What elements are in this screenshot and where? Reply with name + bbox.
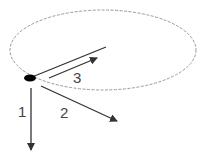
circular-motion-diagram: 3 2 1 [0, 0, 206, 163]
label-3: 3 [73, 69, 81, 86]
diagram-canvas: 3 2 1 [0, 0, 206, 163]
label-1: 1 [18, 103, 26, 120]
label-2: 2 [60, 104, 68, 121]
circular-path [10, 10, 196, 90]
radius-line [32, 47, 106, 77]
object-dot [24, 75, 36, 82]
arrow-2 [41, 86, 117, 121]
